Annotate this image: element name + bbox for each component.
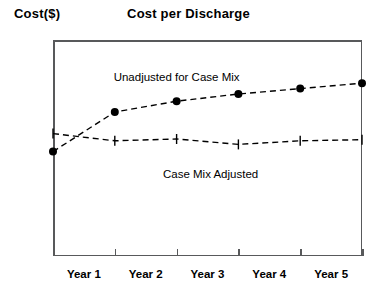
- x-tick-mark: [177, 249, 179, 256]
- x-tick-label: Year 4: [252, 268, 286, 280]
- chart-title: Cost per Discharge: [0, 6, 377, 21]
- x-tick-label: Year 5: [314, 268, 348, 280]
- data-point-marker: [296, 85, 304, 93]
- x-tick-label: Year 2: [129, 268, 163, 280]
- x-tick-mark: [362, 249, 364, 256]
- data-point-marker: [111, 108, 119, 116]
- x-tick-mark: [115, 249, 117, 256]
- data-point-marker: [49, 148, 57, 156]
- series-line: [53, 134, 362, 145]
- series-annotation-label: Unadjusted for Case Mix: [114, 71, 240, 83]
- data-point-marker: [173, 97, 181, 105]
- x-tick-label: Year 3: [191, 268, 225, 280]
- series-annotation-label: Case Mix Adjusted: [163, 168, 258, 180]
- data-point-marker: [234, 90, 242, 98]
- x-tick-mark: [53, 249, 55, 256]
- cost-per-discharge-chart: Cost($) Cost per Discharge 6,0005,0004,0…: [0, 0, 377, 295]
- x-tick-label: Year 1: [67, 268, 101, 280]
- x-tick-mark: [300, 249, 302, 256]
- data-point-marker: [358, 79, 366, 87]
- x-tick-mark: [238, 249, 240, 256]
